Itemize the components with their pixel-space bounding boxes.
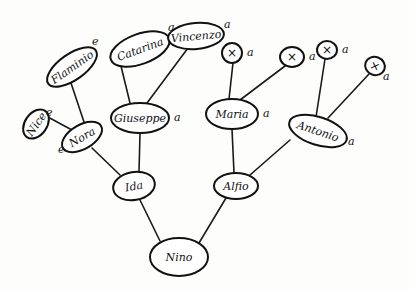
node-x2: ×: [280, 47, 304, 67]
node-antonio: Antonio: [285, 108, 351, 153]
edge-alfio-antonio: [250, 140, 290, 175]
nodes-layer: NinoIdaAlfioNoraeGiuseppeaMariaaAntonioa…: [18, 18, 390, 276]
node-mark-flaminio: e: [92, 35, 99, 48]
node-x3: ×: [317, 41, 337, 59]
node-mark-vincenzo: a: [224, 18, 231, 31]
node-mark-x3: a: [342, 43, 349, 56]
node-mark-nora: e: [58, 143, 65, 156]
edge-nino-ida: [140, 200, 160, 241]
node-mark-giuseppe: a: [174, 111, 181, 124]
node-catarina: Catarina: [106, 24, 175, 73]
node-alfio: Alfio: [214, 173, 258, 199]
family-tree-diagram: NinoIdaAlfioNoraeGiuseppeaMariaaAntonioa…: [0, 0, 409, 292]
node-nino: Nino: [150, 238, 208, 276]
node-label: Alfio: [222, 180, 249, 193]
unknown-person-mark: ×: [227, 46, 237, 60]
edge-nora-flaminio: [70, 80, 85, 125]
node-mark-antonio: a: [348, 135, 355, 148]
node-maria: Maria: [206, 99, 258, 129]
diagram-canvas: NinoIdaAlfioNoraeGiuseppeaMariaaAntonioa…: [0, 0, 409, 292]
edge-alfio-maria: [232, 129, 234, 173]
node-mark-x1: a: [247, 46, 254, 59]
edge-ida-giuseppe: [139, 133, 140, 172]
edge-giuseppe-catarina: [120, 62, 130, 103]
node-vincenzo: Vincenzo: [167, 21, 225, 52]
node-label: Giuseppe: [114, 112, 167, 125]
node-mark-nice: e: [46, 106, 53, 119]
edge-maria-x2: [240, 66, 285, 100]
edge-antonio-x3: [316, 59, 325, 117]
node-mark-x4: a: [383, 70, 390, 83]
node-giuseppe: Giuseppe: [111, 103, 169, 133]
edge-antonio-x4: [328, 74, 369, 118]
unknown-person-mark: ×: [287, 50, 297, 64]
node-mark-x2: a: [309, 50, 316, 63]
edge-ida-nora: [92, 148, 120, 175]
node-mark-maria: a: [263, 107, 270, 120]
node-label: Nino: [165, 251, 193, 264]
node-label: Maria: [214, 108, 248, 121]
edge-maria-x1: [229, 63, 233, 99]
unknown-person-mark: ×: [322, 43, 332, 57]
edge-nino-alfio: [199, 198, 226, 243]
node-x1: ×: [222, 43, 242, 63]
